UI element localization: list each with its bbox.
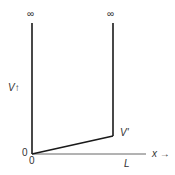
v-axis-label: V↑ <box>8 83 20 93</box>
origin-x-label: 0 <box>29 156 35 166</box>
length-label: L <box>124 159 130 169</box>
sloped-floor <box>32 136 113 154</box>
v-prime-label: V' <box>120 128 129 138</box>
infinity-left-label: ∞ <box>27 9 34 19</box>
infinity-right-label: ∞ <box>107 9 114 19</box>
potential-well-diagram: ∞ ∞ V↑ V' 0 0 x → L <box>0 0 175 175</box>
origin-y-label: 0 <box>22 148 28 158</box>
x-axis-label: x → <box>152 149 170 159</box>
